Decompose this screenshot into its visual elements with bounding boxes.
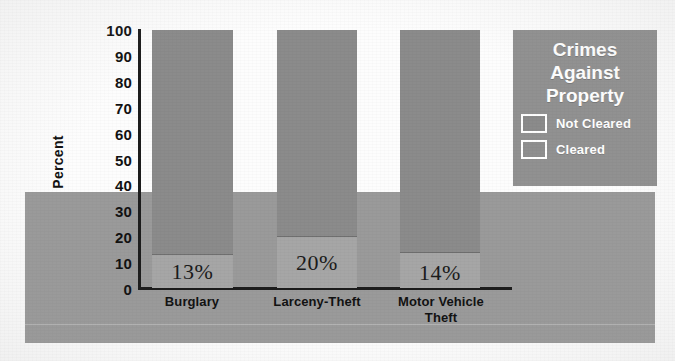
bar-motor-vehicle-theft: 14% <box>400 30 480 288</box>
y-tick-70: 70 <box>96 100 132 117</box>
bar-segment-cleared: 20% <box>277 236 357 288</box>
y-axis-line <box>138 29 141 289</box>
chart-legend: Crimes Against Property Not Cleared Clea… <box>513 30 657 186</box>
bar-burglary: 13% <box>152 30 233 288</box>
y-tick-30: 30 <box>96 203 132 220</box>
category-label-line1: Motor Vehicle <box>382 294 500 310</box>
legend-swatch-not-cleared <box>521 114 547 133</box>
legend-item-not-cleared: Not Cleared <box>521 114 657 133</box>
bar-value-label: 20% <box>277 250 357 276</box>
bar-segment-not-cleared <box>277 30 357 236</box>
legend-label-not-cleared: Not Cleared <box>556 116 631 131</box>
category-label-line1: Larceny-Theft <box>257 294 377 310</box>
category-label-burglary: Burglary <box>132 294 252 310</box>
bar-segment-not-cleared <box>152 30 233 254</box>
bar-larceny-theft: 20% <box>277 30 357 288</box>
category-label-line2: Theft <box>382 310 500 326</box>
y-tick-40: 40 <box>96 177 132 194</box>
chart-page: 100 90 80 70 60 50 40 30 20 10 0 Percent… <box>0 0 675 361</box>
bar-segment-cleared: 14% <box>400 252 480 288</box>
bar-segment-not-cleared <box>400 30 480 252</box>
y-tick-90: 90 <box>96 48 132 65</box>
y-tick-60: 60 <box>96 126 132 143</box>
legend-title-line1: Crimes <box>519 38 651 61</box>
y-axis-label: Percent <box>50 102 66 222</box>
y-tick-0: 0 <box>96 281 132 298</box>
legend-label-cleared: Cleared <box>556 142 605 157</box>
y-tick-20: 20 <box>96 229 132 246</box>
y-tick-80: 80 <box>96 74 132 91</box>
y-axis-ticks: 100 90 80 70 60 50 40 30 20 10 0 <box>96 0 132 361</box>
bar-value-label: 13% <box>152 259 233 285</box>
legend-title-line3: Property <box>519 84 651 107</box>
bar-segment-cleared: 13% <box>152 254 233 288</box>
y-tick-100: 100 <box>96 22 132 39</box>
y-tick-50: 50 <box>96 152 132 169</box>
category-label-larceny-theft: Larceny-Theft <box>257 294 377 310</box>
category-label-line1: Burglary <box>132 294 252 310</box>
bar-value-label: 14% <box>400 260 480 286</box>
legend-swatch-cleared <box>521 140 547 159</box>
legend-item-cleared: Cleared <box>521 140 657 159</box>
y-tick-10: 10 <box>96 255 132 272</box>
legend-title-line2: Against <box>519 61 651 84</box>
legend-title: Crimes Against Property <box>513 38 657 107</box>
category-label-motor-vehicle-theft: Motor Vehicle Theft <box>382 294 500 326</box>
